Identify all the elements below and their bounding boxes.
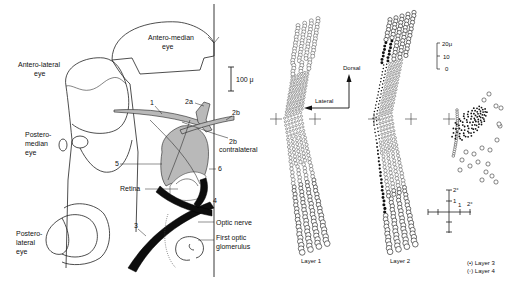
receptor-dot-open — [395, 60, 397, 62]
receptor-dot-open — [292, 126, 294, 128]
receptor-dot-open — [300, 75, 302, 77]
svg-text:2°: 2° — [467, 201, 473, 207]
receptor-dot-open — [295, 110, 297, 112]
receptor-dot-filled — [378, 107, 380, 109]
receptor-dot-open — [298, 90, 300, 92]
receptor-dot-open — [395, 177, 399, 181]
receptor-dot-open — [296, 79, 298, 81]
receptor-dot-open — [288, 120, 290, 122]
receptor-dot-open — [291, 79, 293, 81]
receptor-dot-open — [381, 137, 383, 139]
receptor-dot-filled — [378, 138, 380, 140]
receptor-dot-filled — [471, 116, 473, 118]
receptor-dot-filled — [473, 117, 475, 119]
receptor-dot-open — [311, 54, 315, 58]
receptor-dot-open — [284, 117, 286, 119]
receptor-dot-open — [290, 115, 292, 117]
svg-text:2b: 2b — [232, 109, 240, 116]
receptor-dot-open — [295, 107, 297, 109]
receptor-dot-open — [381, 133, 383, 135]
receptor-dot-open — [303, 80, 305, 82]
crosshair-icon — [368, 113, 380, 125]
receptor-dot-open — [392, 89, 394, 91]
receptor-dot-filled — [485, 115, 487, 117]
svg-text:Retina: Retina — [120, 185, 140, 192]
receptor-dot-filled — [467, 130, 469, 132]
receptor-dot-open — [298, 106, 300, 108]
receptor-dot-filled — [464, 118, 466, 120]
anatomy-diagram: Antero-median eye Antero-lateral eye Pos… — [16, 4, 258, 277]
receptor-dot-open — [294, 75, 296, 77]
receptor-dot-open — [394, 92, 396, 94]
receptor-dot-open — [392, 61, 394, 63]
receptor-dot-filled — [476, 129, 478, 131]
receptor-dot-open — [378, 115, 380, 117]
receptor-dot-filled — [468, 127, 470, 129]
receptor-dot-filled — [453, 127, 455, 129]
receptor-dot-open — [396, 150, 399, 153]
receptor-dot-open — [296, 104, 298, 106]
receptor-dot-open — [295, 91, 297, 93]
receptor-dot-open — [300, 115, 302, 117]
receptor-dot-open — [404, 244, 410, 250]
receptor-dot-filled — [383, 207, 386, 210]
receptor-dot-open — [304, 91, 306, 93]
receptor-dot-open — [391, 145, 394, 148]
receptor-dot-open — [302, 155, 305, 158]
receptor-dot-open — [381, 114, 383, 116]
receptor-dot-open — [396, 70, 398, 72]
receptor-dot-open — [387, 142, 390, 145]
receptor-dot-filled — [478, 123, 480, 125]
receptor-dot-filled — [476, 116, 478, 118]
layer-2-label: Layer 2 — [390, 258, 411, 264]
receptor-dot-open — [382, 158, 385, 161]
receptor-dot-filled — [377, 153, 379, 155]
svg-text:Dorsal: Dorsal — [343, 65, 360, 71]
receptor-dot-open — [393, 162, 396, 165]
receptor-dot-open — [290, 163, 293, 166]
receptor-dot-open — [301, 119, 303, 121]
receptor-dot-filled — [478, 105, 480, 107]
receptor-dot-filled — [386, 63, 388, 65]
receptor-dot-open — [497, 122, 501, 126]
receptor-dot-open — [388, 109, 390, 111]
receptor-dot-open — [299, 250, 305, 256]
receptor-dot-filled — [486, 111, 488, 113]
svg-text:2a: 2a — [185, 98, 193, 105]
receptor-dot-open — [460, 158, 464, 162]
receptor-dot-filled — [458, 124, 460, 126]
receptor-dot-open — [289, 107, 291, 109]
receptor-dot-filled — [389, 46, 392, 49]
receptor-dot-open — [302, 152, 305, 155]
receptor-dot-filled — [480, 117, 482, 119]
receptor-dot-open — [301, 148, 304, 151]
receptor-dot-open — [392, 122, 394, 124]
receptor-dot-filled — [384, 41, 387, 44]
receptor-dot-open — [394, 95, 396, 97]
receptor-dot-filled — [467, 116, 469, 118]
svg-text:1: 1 — [453, 198, 457, 204]
svg-text:Postero-: Postero- — [16, 230, 43, 237]
receptor-dot-filled — [383, 200, 386, 203]
receptor-dot-open — [390, 84, 392, 86]
receptor-dot-open — [303, 159, 306, 162]
receptor-dot-filled — [380, 78, 382, 80]
receptor-dot-open — [286, 108, 288, 110]
receptor-dot-open — [395, 73, 397, 75]
receptor-dot-open — [383, 89, 385, 91]
receptor-dot-filled — [478, 108, 480, 110]
receptor-dot-open — [388, 94, 390, 96]
receptor-dot-filled — [455, 128, 457, 130]
receptor-dot-open — [382, 95, 384, 97]
receptor-dot-filled — [379, 167, 381, 169]
receptor-dot-open — [392, 74, 394, 76]
svg-text:6: 6 — [218, 165, 222, 172]
receptor-dot-filled — [480, 119, 482, 121]
receptor-dot-open — [464, 150, 468, 154]
postero-lateral-eye-outline — [62, 204, 110, 265]
receptor-dot-open — [398, 72, 400, 74]
svg-text:100 μ: 100 μ — [236, 76, 254, 84]
receptor-dot-open — [390, 178, 394, 182]
receptor-dot-open — [303, 170, 307, 174]
svg-text:contralateral: contralateral — [219, 146, 258, 153]
